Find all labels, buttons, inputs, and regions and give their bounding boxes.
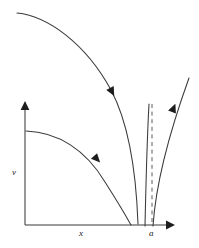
figure-container: v x a [0, 0, 199, 248]
upper-incoming-trajectory [17, 13, 138, 224]
lower-incoming-trajectory [26, 131, 131, 225]
critical-point-label: a [149, 228, 154, 238]
trajectory-diagram: v x a [0, 0, 199, 248]
upper-trajectory-arrow-icon [106, 86, 118, 98]
x-axis-arrow [166, 221, 175, 230]
x-axis-label: x [78, 228, 83, 238]
axes-group: v x a [12, 101, 175, 238]
y-axis-label: v [12, 167, 16, 177]
inner-incoming-trajectory [145, 104, 149, 226]
lower-trajectory-arrow-icon [91, 153, 103, 165]
curves-group [17, 13, 189, 226]
outgoing-trajectory [153, 78, 189, 226]
y-axis-arrow [21, 101, 30, 110]
